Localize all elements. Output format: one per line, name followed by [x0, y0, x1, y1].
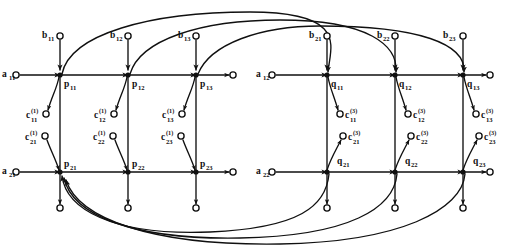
label-c1-23-sup: (1)	[166, 129, 173, 137]
terminal-c1-22	[110, 133, 116, 139]
label-b13-sub: 13	[184, 35, 191, 42]
label-c1-12: c (1) 12	[94, 107, 106, 123]
c-stubs-left-row1	[48, 77, 195, 110]
label-a22-base: a	[256, 166, 261, 176]
label-p11: p 11	[64, 79, 76, 91]
label-b23-sub: 23	[449, 35, 456, 42]
label-c3-22: c (3) 22	[416, 129, 428, 145]
label-c3-22-sub: 22	[421, 138, 428, 145]
label-a21-base: a	[2, 166, 7, 176]
terminal-b13	[193, 33, 199, 39]
label-b22-sub: 22	[383, 35, 390, 42]
label-p23-sub: 23	[206, 164, 213, 171]
label-c3-23-sup: (3)	[489, 129, 496, 137]
label-b12-sub: 12	[116, 35, 123, 42]
terminal-bottom-4	[324, 205, 330, 211]
label-p12: p 12	[132, 79, 145, 91]
figure-canvas: a 11 a 21 a 12 a 22 b 11 b 12 b 13 b	[0, 0, 507, 247]
label-c1-13-base: c	[162, 110, 166, 120]
label-c3-13-sup: (3)	[486, 107, 493, 115]
label-p22-base: p	[132, 159, 137, 169]
node-q12	[392, 72, 397, 77]
label-b21: b 21	[309, 30, 322, 42]
label-c1-12-sub: 12	[99, 116, 106, 123]
label-q12: q 12	[399, 79, 412, 91]
label-q22-sub: 22	[411, 161, 418, 168]
label-c1-23: c (1) 23	[161, 129, 173, 145]
label-b22-base: b	[377, 30, 382, 40]
terminal-c3-12	[405, 111, 411, 117]
terminal-bottom-2	[125, 205, 131, 211]
label-q23: q 23	[473, 156, 486, 168]
label-c1-23-base: c	[161, 132, 165, 142]
label-c1-21-base: c	[25, 132, 29, 142]
label-a12-base: a	[256, 69, 261, 79]
label-c3-11-sub: 11	[350, 116, 356, 123]
terminal-bottom-3	[193, 205, 199, 211]
label-p23: p 23	[200, 159, 213, 171]
label-c1-22: c (1) 22	[93, 129, 105, 145]
label-c1-22-sup: (1)	[98, 129, 105, 137]
label-c3-13: c (3) 13	[481, 107, 493, 123]
label-q13-sub: 13	[473, 84, 480, 91]
label-p21-base: p	[64, 159, 69, 169]
label-c1-11-sub: 11	[31, 116, 37, 123]
label-c1-12-base: c	[94, 110, 98, 120]
label-a22-sub: 22	[263, 171, 270, 178]
label-c3-21-base: c	[348, 132, 352, 142]
label-c3-11-base: c	[345, 110, 349, 120]
terminal-c1-11	[43, 111, 49, 117]
label-q11-sub: 11	[337, 84, 343, 91]
terminal-c3-21	[340, 133, 346, 139]
label-q21-sub: 21	[343, 161, 350, 168]
label-a11-base: a	[2, 69, 7, 79]
label-p13: p 13	[200, 79, 213, 91]
terminal-c3-13	[473, 111, 479, 117]
label-c3-22-base: c	[416, 132, 420, 142]
terminal-c1-23	[178, 133, 184, 139]
terminal-c3-23	[476, 133, 482, 139]
label-c1-13: c (1) 13	[162, 107, 174, 123]
terminal-c3-22	[408, 133, 414, 139]
node-p23	[193, 169, 198, 174]
label-a21-sub: 21	[9, 171, 16, 178]
label-p22: p 22	[132, 159, 145, 171]
node-q22	[392, 169, 397, 174]
label-p13-sub: 13	[206, 84, 213, 91]
top-feedback-arcs	[62, 12, 464, 74]
terminal-c1-12	[111, 111, 117, 117]
label-a21: a 21	[2, 166, 16, 178]
terminal-bottom-6	[460, 205, 466, 211]
label-c3-12-sub: 12	[418, 116, 425, 123]
label-b12: b 12	[110, 30, 123, 42]
label-b12-base: b	[110, 30, 115, 40]
terminal-a22	[269, 169, 275, 175]
label-b23: b 23	[443, 30, 456, 42]
label-q22: q 22	[405, 156, 418, 168]
node-q21	[324, 169, 329, 174]
label-c1-11: c (1) 11	[26, 107, 38, 123]
label-a12-sub: 12	[263, 74, 270, 81]
label-c3-21-sup: (3)	[353, 129, 360, 137]
label-b13-base: b	[178, 30, 183, 40]
node-q13	[460, 72, 465, 77]
label-c1-21-sub: 21	[30, 138, 37, 145]
label-c3-21: c (3) 21	[348, 129, 360, 145]
label-a22: a 22	[256, 166, 270, 178]
terminal-b21	[324, 33, 330, 39]
label-c3-13-base: c	[481, 110, 485, 120]
label-c1-11-base: c	[26, 110, 30, 120]
node-q23	[460, 169, 465, 174]
terminal-out-q13	[487, 72, 493, 78]
node-p22	[125, 169, 130, 174]
terminal-c3-11	[337, 111, 343, 117]
vertical-stems	[60, 40, 463, 204]
node-p13	[193, 72, 198, 77]
label-c3-22-sup: (3)	[421, 129, 428, 137]
terminal-out-p23	[230, 169, 236, 175]
label-c3-12: c (3) 12	[413, 107, 425, 123]
label-p12-base: p	[132, 79, 137, 89]
terminal-out-p13	[230, 72, 236, 78]
label-c3-23: c (3) 23	[484, 129, 496, 145]
terminal-c1-21	[42, 133, 48, 139]
